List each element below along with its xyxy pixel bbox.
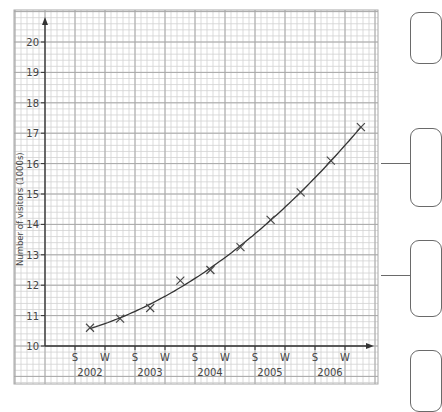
- y-tick-label: 17: [26, 128, 39, 139]
- y-axis-title: Number of visitors (1000s): [15, 152, 25, 266]
- y-tick-label: 11: [26, 311, 39, 322]
- connector-line-2: [381, 163, 411, 164]
- x-tick-label: S: [252, 352, 258, 363]
- annotation-box-2: [410, 128, 442, 207]
- y-tick-label: 12: [26, 280, 39, 291]
- y-tick-label: 20: [26, 37, 39, 48]
- x-tick-label: W: [160, 352, 170, 363]
- connector-line-3: [381, 275, 411, 276]
- x-tick-label: S: [72, 352, 78, 363]
- x-tick-label: W: [280, 352, 290, 363]
- data-point-x-marker-icon: [297, 188, 305, 196]
- year-label: 2004: [197, 367, 222, 378]
- y-tick-label: 10: [26, 341, 39, 352]
- x-tick-label: W: [100, 352, 110, 363]
- y-tick-label: 14: [26, 219, 39, 230]
- year-label: 2003: [137, 367, 162, 378]
- x-tick-label: S: [132, 352, 138, 363]
- x-tick-label: S: [312, 352, 318, 363]
- x-tick-label: W: [340, 352, 350, 363]
- annotation-box-1: [410, 12, 442, 64]
- y-tick-label: 13: [26, 250, 39, 261]
- annotation-box-4: [410, 350, 442, 412]
- x-tick-label: S: [192, 352, 198, 363]
- grid: [14, 10, 378, 384]
- x-axis-arrow-icon: [366, 343, 374, 349]
- annotation-box-3: [410, 240, 442, 317]
- year-label: 2002: [77, 367, 102, 378]
- y-tick-label: 19: [26, 67, 39, 78]
- x-tick-label: W: [220, 352, 230, 363]
- y-tick-label: 16: [26, 159, 39, 170]
- y-tick-label: 15: [26, 189, 39, 200]
- y-tick-label: 18: [26, 98, 39, 109]
- y-axis-arrow-icon: [42, 17, 48, 25]
- year-label: 2006: [317, 367, 342, 378]
- year-label: 2005: [257, 367, 282, 378]
